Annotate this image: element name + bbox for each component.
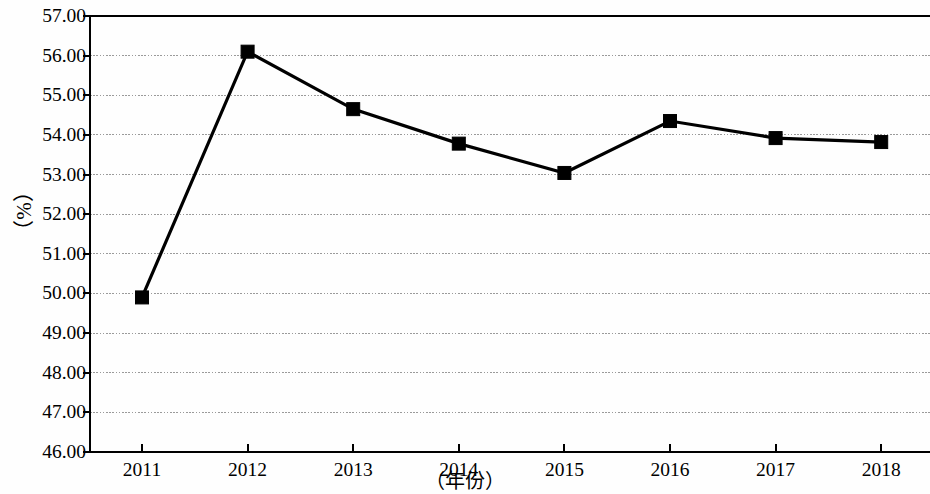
data-point-marker: [452, 137, 465, 150]
gridlines: [90, 56, 930, 413]
data-point-marker: [241, 45, 254, 58]
line-chart-figure: （%） 57.0056.0055.0054.0053.0052.0051.005…: [0, 0, 930, 494]
data-point-marker: [664, 115, 677, 128]
data-line: [142, 52, 881, 298]
data-point-marker: [347, 103, 360, 116]
axis-lines: [90, 16, 930, 452]
data-point-marker: [136, 291, 149, 304]
data-point-marker: [769, 132, 782, 145]
plot-area: [0, 0, 930, 494]
data-point-marker: [875, 136, 888, 149]
series-polyline: [142, 52, 881, 298]
data-point-marker: [558, 166, 571, 179]
